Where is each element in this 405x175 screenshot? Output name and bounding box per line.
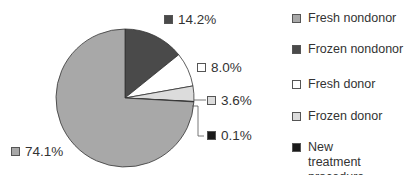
slice-label-fresh-nondonor: 74.1% (11, 144, 63, 159)
slice-value-frozen-nondonor: 14.2% (178, 12, 216, 27)
legend-swatch (292, 143, 301, 152)
legend-item-fresh-donor: Fresh donor (292, 77, 375, 92)
swatch-new-treatment (207, 131, 216, 140)
swatch-frozen-nondonor (164, 15, 173, 24)
slice-label-frozen-donor: 3.6% (207, 93, 252, 108)
legend-label: Frozen nondonor (308, 42, 403, 57)
legend-item-fresh-nondonor: Fresh nondonor (292, 11, 396, 26)
legend-swatch (292, 14, 301, 23)
legend-swatch (292, 112, 301, 121)
slice-label-frozen-nondonor: 14.2% (164, 12, 216, 27)
legend-label: New treatment procedure (308, 140, 382, 175)
slice-value-fresh-donor: 8.0% (211, 60, 242, 75)
slice-label-fresh-donor: 8.0% (197, 60, 242, 75)
slice-label-new-treatment: 0.1% (207, 128, 252, 143)
legend-item-new-treatment: New treatment procedure (292, 140, 382, 175)
legend-label: Frozen donor (308, 109, 382, 124)
legend-label: Fresh nondonor (308, 11, 396, 26)
swatch-frozen-donor (207, 96, 216, 105)
slice-value-fresh-nondonor: 74.1% (25, 144, 63, 159)
swatch-fresh-donor (197, 63, 206, 72)
legend-item-frozen-donor: Frozen donor (292, 109, 382, 124)
legend-label: Fresh donor (308, 77, 375, 92)
swatch-fresh-nondonor (11, 147, 20, 156)
legend-swatch (292, 80, 301, 89)
pie-slices (56, 29, 194, 167)
legend-item-frozen-nondonor: Frozen nondonor (292, 42, 403, 57)
slice-value-new-treatment: 0.1% (221, 128, 252, 143)
legend-swatch (292, 45, 301, 54)
leader-line-new-treatment (192, 106, 204, 136)
slice-value-frozen-donor: 3.6% (221, 93, 252, 108)
